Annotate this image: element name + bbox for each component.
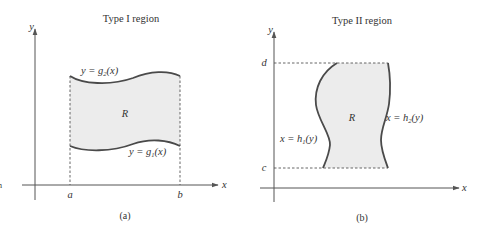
panel-a-title: Type I region <box>103 13 160 24</box>
caption-a: (a) <box>119 210 130 222</box>
tick-label-b: b <box>177 189 182 200</box>
left-boundary-label: x = h1(y) <box>279 133 318 145</box>
x-axis-label-a: x <box>221 179 227 190</box>
y-axis-label-b: y <box>267 24 273 35</box>
panel-type-1: Type I region y x a b R y = g2(x) y = g1… <box>22 13 227 222</box>
tick-label-c: c <box>262 162 267 173</box>
panel-type-2: Type II region y x d c R x = h1(y) x = h… <box>260 15 467 224</box>
tick-label-a: a <box>67 189 72 200</box>
y-axis-label-a: y <box>28 21 34 32</box>
region-label-r-a: R <box>121 108 129 119</box>
stray-mark: n <box>0 181 2 190</box>
caption-b: (b) <box>356 212 368 224</box>
right-boundary-label: x = h2(y) <box>385 112 424 124</box>
tick-label-d: d <box>261 57 267 68</box>
lower-boundary-label: y = g1(x) <box>128 146 167 158</box>
x-axis-label-b: x <box>461 182 467 193</box>
panel-b-title: Type II region <box>332 15 393 26</box>
diagram-canvas: Type I region y x a b R y = g2(x) y = g1… <box>0 0 482 244</box>
upper-boundary-label: y = g2(x) <box>80 65 119 77</box>
region-label-r-b: R <box>348 112 356 123</box>
